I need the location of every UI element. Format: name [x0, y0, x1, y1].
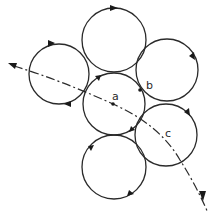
label-b: b	[146, 79, 153, 92]
trajectory-arrow-left-icon	[8, 63, 17, 69]
label-c: c	[165, 127, 171, 140]
vortex-diagram: a b c	[0, 0, 215, 215]
arrow-upper-left-bottom-icon	[64, 101, 71, 107]
dashed-trajectory	[14, 66, 208, 213]
arrow-upper-left-top-icon	[48, 40, 55, 47]
circle-bottom	[82, 135, 146, 199]
arrow-lower-right-icon	[184, 108, 190, 116]
arrow-center-top-icon	[95, 75, 101, 81]
arrow-top-circle-icon	[110, 5, 118, 11]
point-b	[138, 88, 142, 92]
trajectory-arrow-down-icon	[199, 191, 206, 201]
arrow-upper-right-icon	[189, 52, 195, 60]
label-a: a	[112, 90, 119, 103]
